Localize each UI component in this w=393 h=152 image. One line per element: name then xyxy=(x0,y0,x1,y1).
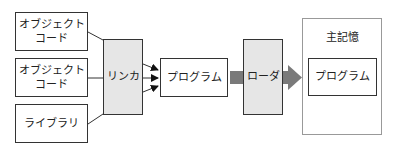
linker-box: リンカ xyxy=(103,39,143,115)
connector-line xyxy=(88,32,103,40)
library-box: ライブラリ xyxy=(15,104,88,143)
arrow-icon xyxy=(143,64,158,70)
program-box: プログラム xyxy=(160,58,228,97)
loader-label: ローダ xyxy=(247,70,280,84)
arrow-icon xyxy=(143,86,158,92)
program-label: プログラム xyxy=(167,71,222,85)
loader-box: ローダ xyxy=(243,39,283,115)
object-code-box-2: オブジェクト コード xyxy=(15,58,88,97)
library-label: ライブラリ xyxy=(24,117,79,131)
main-memory-title: 主記憶 xyxy=(303,31,381,45)
object-code-label-2: オブジェクト コード xyxy=(19,64,85,92)
thick-arrow-head-icon xyxy=(288,65,302,90)
object-code-label-1: オブジェクト コード xyxy=(19,18,85,46)
memory-program-label: プログラム xyxy=(315,70,370,84)
object-code-box-1: オブジェクト コード xyxy=(15,12,88,51)
linker-label: リンカ xyxy=(107,70,140,84)
connector-line xyxy=(88,114,103,124)
memory-program-box: プログラム xyxy=(308,58,377,96)
